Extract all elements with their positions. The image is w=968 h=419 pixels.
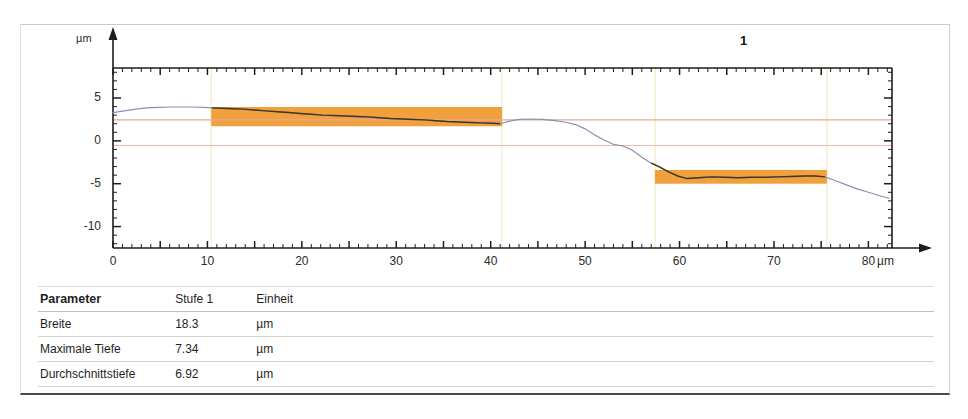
cell-value: 18.3 [173, 312, 254, 337]
cell-value: 6.92 [173, 362, 254, 387]
x-tick-label-4: 40 [471, 254, 511, 268]
x-tick-label-6: 60 [660, 254, 700, 268]
vertical-guide-group [211, 68, 827, 248]
y-tick-label-0: 5 [65, 90, 101, 104]
cell-parameter: Breite [38, 312, 173, 337]
cell-value: 7.34 [173, 337, 254, 362]
header-stufe-1: Stufe 1 [173, 287, 254, 312]
y-tick-label-2: -5 [65, 176, 101, 190]
y-tick-label-1: 0 [65, 133, 101, 147]
x-axis-arrow-head [919, 244, 932, 253]
x-tick-label-1: 10 [187, 254, 227, 268]
cell-parameter: Durchschnittstiefe [38, 362, 173, 387]
parameter-table: Parameter Stufe 1 Einheit Breite18.3µmMa… [38, 286, 934, 387]
cell-spacer [357, 312, 934, 337]
cell-unit: µm [254, 312, 357, 337]
table-row: Maximale Tiefe7.34µm [38, 337, 934, 362]
x-tick-label-7: 70 [754, 254, 794, 268]
y-axis-arrow-head [109, 27, 118, 40]
cell-parameter: Maximale Tiefe [38, 337, 173, 362]
x-tick-label-3: 30 [376, 254, 416, 268]
header-spacer [357, 287, 934, 312]
header-parameter: Parameter [38, 287, 173, 312]
x-tick-label-5: 50 [565, 254, 605, 268]
table-row: Breite18.3µm [38, 312, 934, 337]
x-tick-label-0: 0 [93, 254, 133, 268]
header-einheit: Einheit [254, 287, 357, 312]
cell-spacer [357, 337, 934, 362]
cell-unit: µm [254, 337, 357, 362]
profile-chart: µm 1 50-5-10 01020304050607080 µm [0, 0, 968, 290]
axis-group [109, 27, 933, 253]
cell-unit: µm [254, 362, 357, 387]
table-header-row: Parameter Stufe 1 Einheit [38, 287, 934, 312]
y-tick-label-3: -10 [65, 219, 101, 233]
parameter-table-container: Parameter Stufe 1 Einheit Breite18.3µmMa… [38, 286, 934, 387]
chart-canvas [0, 0, 968, 290]
table-row: Durchschnittstiefe6.92µm [38, 362, 934, 387]
x-tick-label-2: 20 [282, 254, 322, 268]
x-axis-unit-label: µm [877, 254, 894, 268]
cell-spacer [357, 362, 934, 387]
parameter-table-body: Breite18.3µmMaximale Tiefe7.34µmDurchsch… [38, 312, 934, 387]
